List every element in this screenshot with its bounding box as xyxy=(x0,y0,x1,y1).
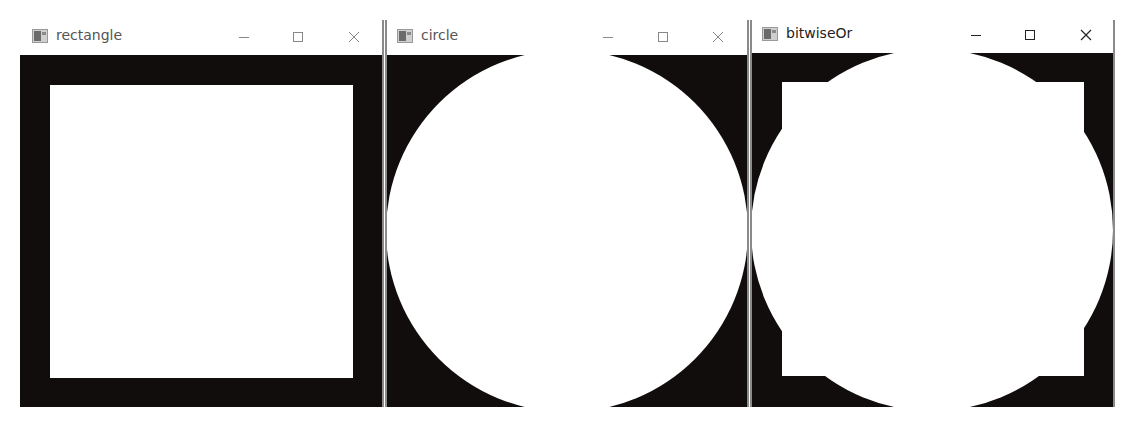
window-bitwise-or: bitwiseOr xyxy=(750,20,1115,407)
window-border xyxy=(747,20,749,407)
titlebar[interactable]: rectangle xyxy=(20,20,384,55)
rectangle-shape xyxy=(20,55,384,407)
window-border xyxy=(750,20,752,407)
window-circle: circle xyxy=(385,20,749,407)
app-icon xyxy=(32,29,48,43)
image-canvas xyxy=(20,55,384,407)
minimize-icon xyxy=(970,29,982,41)
minimize-icon xyxy=(238,31,250,43)
minimize-icon xyxy=(602,31,614,43)
app-icon xyxy=(397,29,413,43)
window-border xyxy=(1113,20,1115,407)
maximize-icon xyxy=(1024,29,1036,41)
close-button[interactable] xyxy=(334,23,374,51)
window-title: circle xyxy=(421,27,458,43)
window-rectangle: rectangle xyxy=(20,20,384,407)
maximize-icon xyxy=(292,31,304,43)
maximize-button[interactable] xyxy=(643,23,683,51)
close-button[interactable] xyxy=(698,23,738,51)
close-icon xyxy=(348,31,360,43)
minimize-button[interactable] xyxy=(588,23,628,51)
minimize-button[interactable] xyxy=(956,21,996,49)
maximize-button[interactable] xyxy=(278,23,318,51)
titlebar[interactable]: bitwiseOr xyxy=(750,20,1115,53)
titlebar[interactable]: circle xyxy=(385,20,749,55)
close-icon xyxy=(1080,29,1092,41)
maximize-icon xyxy=(657,31,669,43)
image-canvas xyxy=(750,53,1115,407)
maximize-button[interactable] xyxy=(1010,21,1050,49)
window-border xyxy=(382,20,384,407)
window-title: rectangle xyxy=(56,27,122,43)
circle-shape xyxy=(385,55,749,407)
minimize-button[interactable] xyxy=(224,23,264,51)
window-title: bitwiseOr xyxy=(786,25,852,41)
close-icon xyxy=(712,31,724,43)
image-canvas xyxy=(385,55,749,407)
window-border xyxy=(385,20,387,407)
close-button[interactable] xyxy=(1066,21,1106,49)
app-icon xyxy=(762,27,778,41)
bitwise-or-shape xyxy=(750,53,1115,407)
